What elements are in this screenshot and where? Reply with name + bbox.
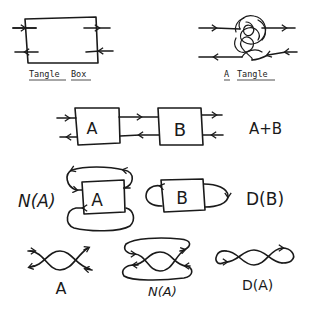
denominator-label: D(B) (246, 189, 284, 209)
box-a (82, 180, 125, 214)
denominator-panel: B D(B) (146, 179, 284, 212)
denominator-loop-right (282, 248, 294, 263)
crossing-panel: A (28, 248, 92, 298)
box-b-label: B (176, 188, 188, 208)
box-a-label: A (87, 119, 98, 138)
arrow-in-bottom-right (86, 51, 113, 52)
strand-in-top (199, 28, 240, 29)
numerator-loop-top (67, 167, 132, 190)
strand-2 (134, 252, 186, 266)
crossing-label: A (56, 279, 67, 298)
knotted-tangle-icon (235, 16, 266, 60)
connector-bottom (120, 135, 159, 136)
crossing-denominator-label: D(A) (242, 277, 273, 293)
denominator-loop-right (204, 184, 228, 207)
tangle-box-rect (25, 17, 98, 63)
denominator-loop-left (216, 251, 226, 264)
box-a-label: A (91, 190, 103, 210)
sum-panel: A B A+B (57, 108, 282, 145)
caption-a: A (224, 69, 229, 79)
numerator-label: N(A) (18, 191, 56, 211)
tangle-box-panel: Tangle Box (13, 17, 113, 80)
strand-1 (134, 250, 184, 271)
crossing-numerator-panel: N(A) (123, 238, 192, 299)
crossing-denominator-panel: D(A) (216, 248, 293, 293)
box-b-label: B (174, 119, 186, 140)
caption-tangle: Tangle (237, 69, 268, 79)
box-a (75, 108, 120, 145)
a-tangle-panel: A Tangle (199, 16, 297, 80)
strand-in-bottom (252, 52, 297, 60)
tangle-diagram-figure: Tangle Box A Tangle A B A+B (0, 0, 312, 313)
denominator-loop-left (146, 186, 162, 206)
numerator-arc-bottom (123, 265, 192, 280)
crossing-numerator-label: N(A) (148, 284, 177, 299)
numerator-panel: A N(A) (18, 167, 133, 231)
caption-box: Box (71, 69, 86, 79)
caption-tangle: Tangle (29, 69, 60, 79)
sum-label: A+B (249, 120, 282, 138)
